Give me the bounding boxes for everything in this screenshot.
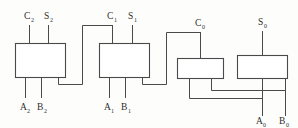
label-a0: A 0	[256, 116, 266, 128]
label-a1-sub: 1	[111, 108, 114, 114]
label-c2-sub: 2	[31, 17, 34, 23]
label-c2: C 2	[24, 11, 34, 23]
label-b0: B 0	[279, 116, 289, 128]
label-a1-base: A	[104, 102, 111, 112]
circuit-diagram: C 2 S 2 A 2 B 2 C 1 S 1 A 1	[0, 0, 298, 128]
adder-block-stage-2	[16, 44, 66, 78]
label-s0-base: S	[258, 17, 263, 27]
label-b1-base: B	[121, 102, 127, 112]
adder-block-stage-1	[100, 44, 150, 78]
label-b1-sub: 1	[128, 108, 131, 114]
label-s1-sub: 1	[134, 17, 137, 23]
circuit-svg: C 2 S 2 A 2 B 2 C 1 S 1 A 1	[0, 0, 298, 128]
label-c1-base: C	[107, 11, 113, 21]
label-b0-base: B	[279, 116, 285, 126]
label-b0-sub: 0	[286, 122, 289, 128]
adder-block-stage-0-carry	[178, 59, 224, 79]
label-c1-sub: 1	[114, 17, 117, 23]
label-a2: A 2	[20, 102, 30, 114]
label-b2-sub: 2	[44, 108, 47, 114]
label-s1-base: S	[128, 11, 133, 21]
label-a0-sub: 0	[263, 122, 266, 128]
wire-a0-to-carry-block	[190, 79, 263, 116]
label-s2-sub: 2	[50, 17, 53, 23]
label-b2: B 2	[37, 102, 47, 114]
label-a1: A 1	[104, 102, 114, 114]
label-c0-base: C	[195, 18, 201, 28]
label-s0: S 0	[258, 17, 267, 29]
label-b1: B 1	[121, 102, 131, 114]
label-s0-sub: 0	[264, 23, 267, 29]
label-s2-base: S	[44, 11, 49, 21]
label-a2-base: A	[20, 102, 27, 112]
label-a2-sub: 2	[27, 108, 30, 114]
label-b2-base: B	[37, 102, 43, 112]
label-c2-base: C	[24, 11, 30, 21]
label-c1: C 1	[107, 11, 117, 23]
adder-block-stage-0-sum	[238, 56, 288, 79]
label-a0-base: A	[256, 116, 263, 126]
label-s1: S 1	[128, 11, 137, 23]
wire-b0-to-carry-block	[212, 79, 286, 116]
label-s2: S 2	[44, 11, 53, 23]
label-c0: C 0	[195, 18, 205, 30]
label-c0-sub: 0	[202, 24, 205, 30]
